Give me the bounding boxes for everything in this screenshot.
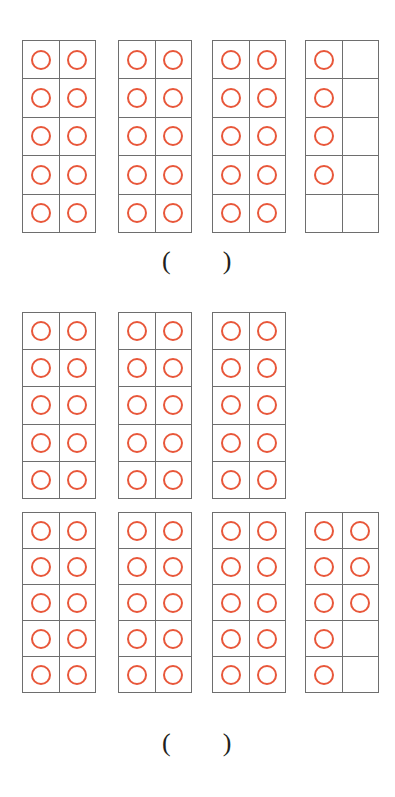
ten-frame-cell[interactable] — [306, 118, 343, 156]
ten-frame-cell[interactable] — [23, 462, 60, 499]
ten-frame-cell[interactable] — [119, 425, 156, 462]
ten-frame-cell[interactable] — [60, 387, 97, 424]
ten-frame-cell[interactable] — [306, 621, 343, 657]
ten-frame-cell[interactable] — [250, 621, 287, 657]
ten-frame-cell[interactable] — [343, 621, 380, 657]
ten-frame-cell[interactable] — [119, 585, 156, 621]
ten-frame-cell[interactable] — [250, 195, 287, 233]
ten-frame-cell[interactable] — [23, 549, 60, 585]
ten-frame-cell[interactable] — [213, 425, 250, 462]
ten-frame-cell[interactable] — [250, 79, 287, 117]
ten-frame-cell[interactable] — [213, 313, 250, 350]
ten-frame-cell[interactable] — [156, 462, 193, 499]
ten-frame-cell[interactable] — [60, 621, 97, 657]
ten-frame-cell[interactable] — [119, 156, 156, 194]
ten-frame-cell[interactable] — [60, 156, 97, 194]
ten-frame-cell[interactable] — [60, 79, 97, 117]
ten-frame-cell[interactable] — [23, 118, 60, 156]
ten-frame-cell[interactable] — [60, 513, 97, 549]
ten-frame-cell[interactable] — [306, 585, 343, 621]
ten-frame-cell[interactable] — [213, 657, 250, 693]
ten-frame-cell[interactable] — [156, 621, 193, 657]
ten-frame-cell[interactable] — [119, 462, 156, 499]
ten-frame-cell[interactable] — [60, 425, 97, 462]
ten-frame-cell[interactable] — [213, 118, 250, 156]
ten-frame-cell[interactable] — [23, 387, 60, 424]
ten-frame-cell[interactable] — [156, 387, 193, 424]
ten-frame-cell[interactable] — [119, 313, 156, 350]
ten-frame-cell[interactable] — [60, 313, 97, 350]
ten-frame-cell[interactable] — [156, 118, 193, 156]
ten-frame-cell[interactable] — [250, 41, 287, 79]
ten-frame-cell[interactable] — [213, 195, 250, 233]
ten-frame-cell[interactable] — [306, 195, 343, 233]
ten-frame-cell[interactable] — [23, 621, 60, 657]
ten-frame-cell[interactable] — [213, 79, 250, 117]
ten-frame-cell[interactable] — [213, 513, 250, 549]
ten-frame-cell[interactable] — [156, 657, 193, 693]
ten-frame-cell[interactable] — [306, 79, 343, 117]
ten-frame-cell[interactable] — [60, 41, 97, 79]
ten-frame-cell[interactable] — [343, 118, 380, 156]
ten-frame-cell[interactable] — [250, 387, 287, 424]
ten-frame-cell[interactable] — [119, 41, 156, 79]
ten-frame-cell[interactable] — [343, 156, 380, 194]
ten-frame-cell[interactable] — [213, 387, 250, 424]
ten-frame-cell[interactable] — [119, 387, 156, 424]
ten-frame-cell[interactable] — [119, 118, 156, 156]
ten-frame-cell[interactable] — [213, 621, 250, 657]
ten-frame-cell[interactable] — [23, 156, 60, 194]
ten-frame-cell[interactable] — [250, 118, 287, 156]
ten-frame-cell[interactable] — [23, 79, 60, 117]
ten-frame-cell[interactable] — [60, 118, 97, 156]
ten-frame-cell[interactable] — [156, 425, 193, 462]
ten-frame-cell[interactable] — [343, 41, 380, 79]
ten-frame-cell[interactable] — [156, 513, 193, 549]
ten-frame-cell[interactable] — [250, 156, 287, 194]
ten-frame-cell[interactable] — [23, 313, 60, 350]
ten-frame-cell[interactable] — [119, 549, 156, 585]
ten-frame-cell[interactable] — [60, 350, 97, 387]
ten-frame-cell[interactable] — [60, 549, 97, 585]
ten-frame-cell[interactable] — [250, 657, 287, 693]
ten-frame-cell[interactable] — [119, 513, 156, 549]
ten-frame-cell[interactable] — [156, 195, 193, 233]
ten-frame-cell[interactable] — [250, 313, 287, 350]
ten-frame-cell[interactable] — [156, 79, 193, 117]
ten-frame-cell[interactable] — [156, 350, 193, 387]
ten-frame-cell[interactable] — [250, 462, 287, 499]
ten-frame-cell[interactable] — [60, 195, 97, 233]
ten-frame-cell[interactable] — [119, 350, 156, 387]
ten-frame-cell[interactable] — [306, 549, 343, 585]
ten-frame-cell[interactable] — [306, 41, 343, 79]
ten-frame-cell[interactable] — [306, 513, 343, 549]
ten-frame-cell[interactable] — [250, 425, 287, 462]
ten-frame-cell[interactable] — [119, 195, 156, 233]
ten-frame-cell[interactable] — [119, 621, 156, 657]
ten-frame-cell[interactable] — [343, 79, 380, 117]
ten-frame-cell[interactable] — [213, 585, 250, 621]
ten-frame-cell[interactable] — [23, 657, 60, 693]
ten-frame-cell[interactable] — [156, 41, 193, 79]
ten-frame-cell[interactable] — [306, 156, 343, 194]
ten-frame-cell[interactable] — [23, 585, 60, 621]
ten-frame-cell[interactable] — [156, 313, 193, 350]
ten-frame-cell[interactable] — [60, 462, 97, 499]
ten-frame-cell[interactable] — [23, 195, 60, 233]
ten-frame-cell[interactable] — [343, 549, 380, 585]
ten-frame-cell[interactable] — [23, 513, 60, 549]
answer-blank[interactable]: () — [162, 248, 231, 274]
ten-frame-cell[interactable] — [306, 657, 343, 693]
ten-frame-cell[interactable] — [343, 657, 380, 693]
answer-blank[interactable]: () — [162, 730, 231, 756]
ten-frame-cell[interactable] — [156, 585, 193, 621]
ten-frame-cell[interactable] — [213, 156, 250, 194]
ten-frame-cell[interactable] — [343, 195, 380, 233]
ten-frame-cell[interactable] — [23, 425, 60, 462]
ten-frame-cell[interactable] — [23, 350, 60, 387]
ten-frame-cell[interactable] — [343, 585, 380, 621]
ten-frame-cell[interactable] — [250, 585, 287, 621]
ten-frame-cell[interactable] — [250, 549, 287, 585]
ten-frame-cell[interactable] — [213, 41, 250, 79]
ten-frame-cell[interactable] — [23, 41, 60, 79]
